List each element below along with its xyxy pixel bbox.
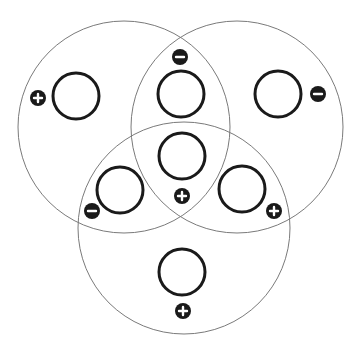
element-circle: [219, 166, 265, 212]
element-circle: [159, 133, 205, 179]
region-right-only: [255, 71, 326, 117]
element-circle: [255, 71, 301, 117]
minus-icon: [84, 203, 100, 219]
element-circle: [158, 71, 204, 117]
region-center-all: [159, 133, 205, 204]
element-circle: [53, 73, 99, 119]
region-markers: [30, 49, 326, 319]
venn-canvas: [0, 0, 357, 345]
region-right-bottom: [219, 166, 282, 219]
region-bottom-only: [159, 249, 205, 319]
element-circle: [159, 249, 205, 295]
plus-icon: [266, 203, 282, 219]
venn-diagram: [0, 0, 357, 345]
plus-icon: [175, 303, 191, 319]
minus-icon: [172, 49, 188, 65]
element-circle: [97, 167, 143, 213]
minus-icon: [310, 86, 326, 102]
plus-icon: [30, 90, 46, 106]
region-left-only: [30, 73, 99, 119]
region-left-right: [158, 49, 204, 117]
plus-icon: [174, 188, 190, 204]
